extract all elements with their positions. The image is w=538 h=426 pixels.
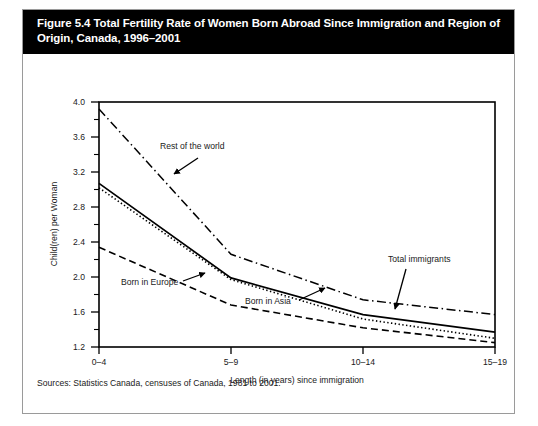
y-tick-label: 3.2 bbox=[73, 167, 85, 177]
y-tick-label: 2.0 bbox=[73, 272, 85, 282]
y-tick-major-1_2: 1.2 bbox=[73, 342, 99, 352]
annotation-arrow bbox=[395, 269, 406, 309]
y-tick-label: 2.4 bbox=[73, 237, 85, 247]
plot-frame bbox=[99, 102, 495, 347]
y-tick-major-3_2: 3.2 bbox=[73, 167, 99, 177]
y-tick-label: 4.0 bbox=[73, 97, 85, 107]
y-tick-major-2_4: 2.4 bbox=[73, 237, 99, 247]
y-tick-label: 1.2 bbox=[73, 342, 85, 352]
figure-card: Figure 5.4 Total Fertility Rate of Women… bbox=[22, 9, 515, 414]
y-tick-major-2_0: 2.0 bbox=[73, 272, 99, 282]
x-tick-label: 5–9 bbox=[224, 357, 239, 367]
x-tick-10-14: 10–14 bbox=[351, 347, 375, 367]
line-chart-svg: 4.0 3.6 3.2 2.8 2.4 bbox=[23, 54, 516, 415]
x-tick-label: 15–19 bbox=[483, 357, 507, 367]
x-tick-label: 10–14 bbox=[351, 357, 375, 367]
y-tick-label: 2.8 bbox=[73, 202, 85, 212]
annotation-label: Rest of the world bbox=[160, 141, 225, 151]
y-tick-major-3_6: 3.6 bbox=[73, 132, 99, 142]
y-axis-title: Child(ren) per Woman bbox=[49, 182, 59, 267]
annotation-born-in-asia: Born in Asia bbox=[245, 288, 325, 306]
source-note: Sources: Statistics Canada, censuses of … bbox=[37, 378, 281, 388]
annotation-label: Born in Asia bbox=[245, 296, 291, 306]
annotation-arrow bbox=[174, 158, 198, 174]
y-tick-major-1_6: 1.6 bbox=[73, 307, 99, 317]
chart-plot-area: 4.0 3.6 3.2 2.8 2.4 bbox=[23, 54, 514, 415]
y-tick-major-4_0: 4.0 bbox=[73, 97, 99, 107]
y-tick-label: 1.6 bbox=[73, 307, 85, 317]
annotation-arrow bbox=[183, 273, 205, 281]
x-tick-15-19: 15–19 bbox=[483, 347, 507, 367]
annotation-label: Born in Europe bbox=[121, 277, 179, 287]
annotation-rest-of-the-world: Rest of the world bbox=[160, 141, 225, 174]
y-tick-label: 3.6 bbox=[73, 132, 85, 142]
x-tick-label: 0–4 bbox=[92, 357, 107, 367]
annotation-arrow bbox=[299, 288, 325, 300]
figure-title-bar: Figure 5.4 Total Fertility Rate of Women… bbox=[23, 10, 514, 54]
x-tick-5-9: 5–9 bbox=[224, 347, 239, 367]
y-tick-major-2_8: 2.8 bbox=[73, 202, 99, 212]
x-tick-0-4: 0–4 bbox=[92, 347, 107, 367]
annotation-total-immigrants: Total immigrants bbox=[388, 254, 451, 309]
annotation-label: Total immigrants bbox=[388, 254, 451, 264]
y-axis: 4.0 3.6 3.2 2.8 2.4 bbox=[49, 97, 99, 352]
figure-title: Figure 5.4 Total Fertility Rate of Women… bbox=[37, 16, 500, 46]
